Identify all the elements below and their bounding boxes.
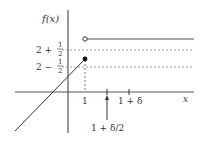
x-tick-delta-label: 1 + δ — [118, 96, 142, 106]
arrow-head-icon — [105, 95, 109, 100]
function-plot: f(x) x 2 + 1 2 2 − 1 2 1 1 + δ 1 + δ/2 — [0, 0, 203, 142]
x-tick-1-label: 1 — [82, 96, 88, 106]
y-tick-lower-den: 2 — [58, 67, 62, 75]
x-axis-label: x — [183, 94, 188, 104]
y-tick-upper-main: 2 + — [36, 45, 52, 55]
annotation-label: 1 + δ/2 — [91, 123, 124, 133]
open-dot — [83, 37, 87, 41]
filled-dot — [83, 57, 88, 62]
y-tick-upper-den: 2 — [58, 50, 62, 58]
y-tick-lower-main: 2 − — [36, 62, 52, 72]
y-tick-upper-num: 1 — [58, 41, 62, 49]
y-axis-label: f(x) — [41, 13, 59, 24]
y-tick-lower-num: 1 — [58, 58, 62, 66]
